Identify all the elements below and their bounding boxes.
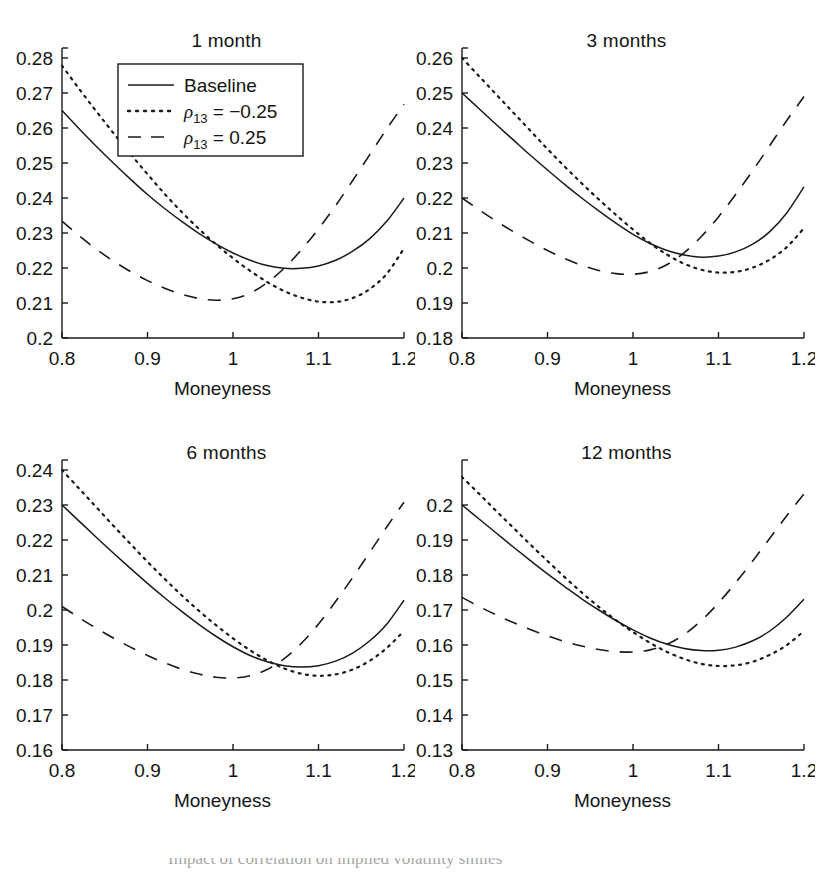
series-line-solid — [462, 505, 804, 651]
caption-clipped: Impact of correlation on implied volatil… — [0, 858, 831, 875]
y-tick-label: 0.16 — [16, 740, 53, 761]
series-line-dashed — [462, 97, 804, 275]
x-tick-label: 1 — [628, 348, 639, 369]
y-tick-label: 0.19 — [416, 530, 453, 551]
y-tick-label: 0.25 — [416, 83, 453, 104]
x-tick-label: 1.1 — [305, 760, 331, 781]
figure-container: 1 month 0.20.210.220.230.240.250.260.270… — [0, 0, 831, 875]
series-line-dashed — [62, 502, 404, 678]
y-tick-label: 0.26 — [416, 48, 453, 69]
y-tick-label: 0.22 — [16, 258, 53, 279]
x-tick-label: 1.1 — [705, 760, 731, 781]
x-tick-label: 0.8 — [49, 348, 75, 369]
x-tick-label: 0.9 — [134, 348, 160, 369]
plot-area-3-months: 0.180.190.20.210.220.230.240.250.260.80.… — [400, 20, 815, 400]
x-tick-label: 1.1 — [305, 348, 331, 369]
y-tick-label: 0.24 — [16, 188, 53, 209]
plot-area-12-months: 0.130.140.150.160.170.180.190.20.80.911.… — [400, 432, 815, 812]
y-tick-label: 0.23 — [16, 495, 53, 516]
x-tick-label: 1 — [628, 760, 639, 781]
x-tick-label: 0.8 — [449, 760, 475, 781]
x-tick-label: 0.9 — [134, 760, 160, 781]
plot-area-6-months: 0.160.170.180.190.20.210.220.230.240.80.… — [0, 432, 415, 812]
y-tick-label: 0.14 — [416, 705, 453, 726]
panel-1-month: 1 month 0.20.210.220.230.240.250.260.270… — [0, 20, 415, 440]
panel-12-months: 12 months 0.130.140.150.160.170.180.190.… — [400, 432, 815, 852]
y-tick-label: 0.23 — [416, 153, 453, 174]
y-tick-label: 0.18 — [416, 328, 453, 349]
legend-label: Baseline — [184, 75, 257, 96]
x-tick-label: 1.1 — [705, 348, 731, 369]
x-axis-label: Moneyness — [400, 790, 815, 812]
y-tick-label: 0.27 — [16, 83, 53, 104]
x-tick-label: 0.8 — [449, 348, 475, 369]
caption-text: Impact of correlation on implied volatil… — [168, 858, 502, 869]
y-tick-label: 0.15 — [416, 670, 453, 691]
x-tick-label: 0.9 — [534, 348, 560, 369]
x-tick-label: 1.2 — [791, 760, 815, 781]
x-axis-label: Moneyness — [400, 378, 815, 400]
y-tick-label: 0.21 — [416, 223, 453, 244]
legend: Baselineρ13 = −0.25ρ13 = 0.25 — [118, 64, 303, 156]
y-tick-label: 0.19 — [416, 293, 453, 314]
x-tick-label: 0.9 — [534, 760, 560, 781]
y-tick-label: 0.16 — [416, 635, 453, 656]
x-tick-label: 0.8 — [49, 760, 75, 781]
y-tick-label: 0.26 — [16, 118, 53, 139]
y-tick-label: 0.19 — [16, 635, 53, 656]
y-tick-label: 0.22 — [16, 530, 53, 551]
y-tick-label: 0.17 — [16, 705, 53, 726]
y-tick-label: 0.2 — [27, 328, 53, 349]
series-line-solid — [62, 505, 404, 667]
series-line-dotted — [62, 470, 404, 676]
panel-6-months: 6 months 0.160.170.180.190.20.210.220.23… — [0, 432, 415, 852]
series-line-solid — [462, 93, 804, 257]
x-axis-label: Moneyness — [0, 378, 415, 400]
y-tick-label: 0.28 — [16, 48, 53, 69]
x-axis-label: Moneyness — [0, 790, 415, 812]
series-line-dotted — [462, 477, 804, 666]
plot-area-1-month: 0.20.210.220.230.240.250.260.270.280.80.… — [0, 20, 415, 400]
x-tick-label: 1.2 — [791, 348, 815, 369]
y-tick-label: 0.2 — [427, 258, 453, 279]
y-tick-label: 0.24 — [16, 460, 53, 481]
y-tick-label: 0.25 — [16, 153, 53, 174]
y-tick-label: 0.23 — [16, 223, 53, 244]
y-tick-label: 0.22 — [416, 188, 453, 209]
x-tick-label: 1 — [228, 760, 239, 781]
y-tick-label: 0.24 — [416, 118, 453, 139]
y-tick-label: 0.18 — [416, 565, 453, 586]
y-tick-label: 0.17 — [416, 600, 453, 621]
series-line-dashed — [462, 494, 804, 652]
y-tick-label: 0.18 — [16, 670, 53, 691]
y-tick-label: 0.13 — [416, 740, 453, 761]
y-tick-label: 0.21 — [16, 565, 53, 586]
y-tick-label: 0.2 — [27, 600, 53, 621]
series-line-dotted — [462, 58, 804, 273]
x-tick-label: 1 — [228, 348, 239, 369]
y-tick-label: 0.2 — [427, 495, 453, 516]
y-tick-label: 0.21 — [16, 293, 53, 314]
panel-3-months: 3 months 0.180.190.20.210.220.230.240.25… — [400, 20, 815, 440]
